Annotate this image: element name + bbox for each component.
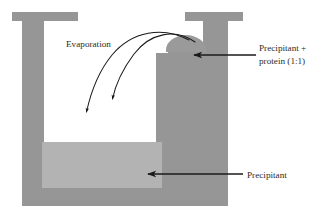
precipitant-protein-label-line1: Precipitant + <box>259 43 306 53</box>
drop-pedestal <box>156 44 206 194</box>
precipitant-label: Precipitant <box>247 170 287 180</box>
left-wall <box>22 20 44 206</box>
evaporation-label: Evaporation <box>66 39 111 49</box>
right-top-lip <box>185 12 243 21</box>
left-top-lip <box>12 12 78 21</box>
precipitant-protein-label-line2: protein (1:1) <box>259 56 305 66</box>
precipitant-reservoir <box>42 142 162 188</box>
vapour-diffusion-diagram: Evaporation Precipitant + protein (1:1) … <box>0 0 333 218</box>
right-wall <box>203 20 228 206</box>
